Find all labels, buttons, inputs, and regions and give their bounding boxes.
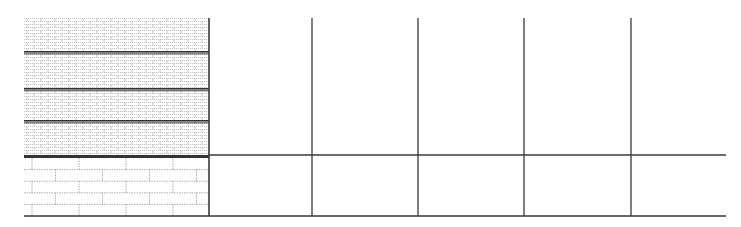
course-band [24, 88, 209, 90]
course-band [24, 51, 209, 53]
architectural-elevation-drawing [0, 0, 741, 227]
course-band [24, 120, 209, 122]
course-band-thin [24, 53, 209, 54]
plinth-band [24, 155, 209, 158]
fine-brick-hatch [24, 18, 209, 155]
lower-brick-panel [24, 158, 209, 216]
course-band-thin [24, 90, 209, 91]
upper-hatch-panel [24, 18, 209, 158]
course-band-thin [24, 122, 209, 123]
